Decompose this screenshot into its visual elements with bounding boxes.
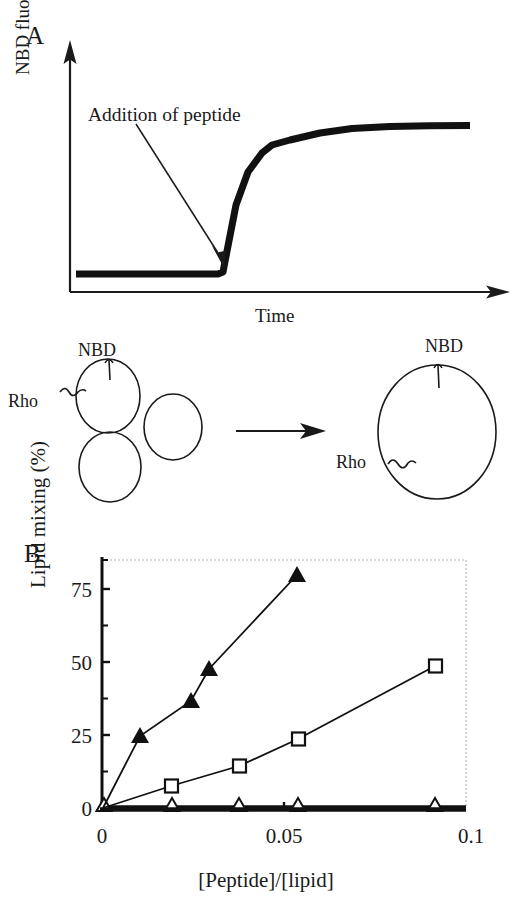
- panel-b: B Lipid mixing (%) [Peptide]/[lipid] 0 2…: [0, 528, 532, 923]
- rho-probe-left-icon: [60, 389, 86, 396]
- fusion-arrow-icon: [236, 423, 326, 439]
- vesicle-large-fused: [378, 365, 496, 499]
- panel-b-series-open-squares-markers: [165, 660, 442, 793]
- panel-b-frame-light: [102, 560, 466, 808]
- figure-root: A NBD fluorescence Time Addition of pept…: [0, 0, 532, 923]
- panel-a-y-axis: [64, 40, 77, 292]
- panel-a: A NBD fluorescence Time Addition of pept…: [0, 0, 532, 340]
- vesicle-small-3: [79, 432, 141, 502]
- panel-a-x-axis: [70, 286, 510, 299]
- panel-b-plot: [0, 528, 532, 923]
- rho-probe-right-icon: [388, 460, 416, 468]
- schematic-fusion: NBD Rho NBD Rho: [0, 336, 532, 522]
- vesicle-small-labelled: [76, 359, 140, 433]
- nbd-probe-right-icon: [438, 365, 439, 388]
- panel-a-trace: [76, 126, 470, 275]
- panel-b-x-axis: [100, 802, 466, 808]
- panel-a-annotation-arrow: [136, 124, 226, 268]
- vesicle-small-2: [144, 394, 202, 460]
- panel-b-series-open-squares-line: [103, 666, 435, 808]
- schematic-drawing: [0, 336, 532, 522]
- panel-b-series-filled-triangles-line: [103, 575, 297, 808]
- panel-a-plot: [0, 0, 532, 340]
- nbd-probe-left-icon: [109, 360, 110, 380]
- panel-b-y-axis: [102, 557, 110, 809]
